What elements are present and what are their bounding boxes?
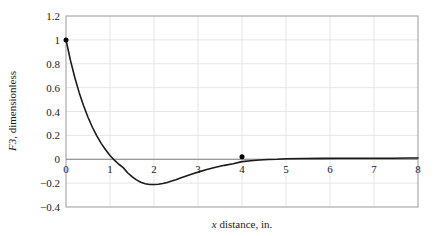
y-tick-label: −0.4 [40,201,60,213]
y-tick-label: −0.2 [40,177,60,189]
line-chart: −0.4−0.200.20.40.60.811.2 012345678 x di… [0,0,435,236]
y-axis-title-symbol: F3 [6,138,18,152]
x-tick-label: 2 [151,163,157,175]
y-tick-label: 0.8 [46,58,60,70]
x-axis-title-text: distance, in. [217,218,273,230]
x-tick-label: 3 [195,163,201,175]
y-axis-title-text: , dimensionless [6,71,18,139]
y-tick-label: 1.2 [46,10,60,22]
data-marker-0 [64,37,69,42]
x-tick-label: 0 [63,163,69,175]
y-tick-label: 1 [55,34,61,46]
x-tick-label: 4 [239,163,245,175]
y-tick-label: 0 [55,153,61,165]
data-marker-1 [240,154,245,159]
x-tick-label: 6 [327,163,333,175]
y-axis-title: F3, dimensionless [6,71,18,152]
y-axis-tick-labels: −0.4−0.200.20.40.60.811.2 [40,10,60,213]
x-axis-title: x distance, in. [211,218,273,230]
y-tick-label: 0.2 [46,129,60,141]
y-tick-label: 0.6 [46,82,60,94]
x-tick-label: 8 [415,163,421,175]
x-tick-label: 1 [107,163,113,175]
chart-screenshot: −0.4−0.200.20.40.60.811.2 012345678 x di… [0,0,435,236]
y-tick-label: 0.4 [46,106,60,118]
x-tick-label: 7 [371,163,377,175]
x-tick-label: 5 [283,163,289,175]
